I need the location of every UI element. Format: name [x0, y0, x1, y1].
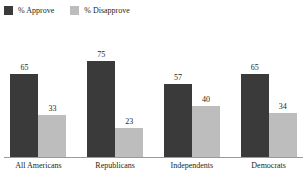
bar-value-disapprove: 34 — [279, 102, 287, 111]
bar-group-democrats: 65 34 — [230, 22, 307, 157]
bar-value-disapprove: 40 — [202, 95, 210, 104]
bar-disapprove — [38, 115, 66, 157]
bar-wrap-approve: 57 — [164, 22, 192, 157]
bar-value-approve: 75 — [97, 50, 105, 59]
bar-disapprove — [269, 113, 297, 157]
x-axis-labels: All Americans Republicans Independents D… — [0, 160, 307, 174]
bar-wrap-disapprove: 23 — [115, 22, 143, 157]
bar-value-disapprove: 33 — [48, 104, 56, 113]
legend-item-disapprove: % Disapprove — [70, 6, 130, 15]
x-axis-label-democrats: Democrats — [230, 160, 307, 172]
bar-approve — [10, 74, 38, 157]
legend-item-approve: % Approve — [4, 6, 54, 15]
bar-disapprove — [192, 106, 220, 157]
bar-wrap-approve: 75 — [87, 22, 115, 157]
bar-wrap-approve: 65 — [241, 22, 269, 157]
x-axis-baseline — [4, 157, 303, 158]
legend-swatch-approve — [4, 6, 13, 15]
bar-chart: % Approve % Disapprove 65 33 — [0, 0, 307, 178]
bar-approve — [241, 74, 269, 157]
bar-group-all-americans: 65 33 — [0, 22, 77, 157]
bar-wrap-approve: 65 — [10, 22, 38, 157]
legend-label-disapprove: % Disapprove — [84, 6, 130, 15]
bar-value-approve: 65 — [251, 63, 259, 72]
bar-value-approve: 57 — [174, 73, 182, 82]
bar-value-disapprove: 23 — [125, 117, 133, 126]
bar-group-independents: 57 40 — [154, 22, 231, 157]
bar-approve — [164, 84, 192, 157]
bar-approve — [87, 61, 115, 157]
bar-value-approve: 65 — [20, 63, 28, 72]
bar-wrap-disapprove: 34 — [269, 22, 297, 157]
x-axis-label-independents: Independents — [154, 160, 231, 172]
bar-wrap-disapprove: 40 — [192, 22, 220, 157]
chart-legend: % Approve % Disapprove — [4, 4, 130, 16]
x-axis-label-republicans: Republicans — [77, 160, 154, 172]
plot-area: 65 33 75 23 — [0, 22, 307, 158]
legend-label-approve: % Approve — [18, 6, 54, 15]
bar-wrap-disapprove: 33 — [38, 22, 66, 157]
x-axis-label-all-americans: All Americans — [0, 160, 77, 172]
legend-swatch-disapprove — [70, 6, 79, 15]
bar-group-republicans: 75 23 — [77, 22, 154, 157]
bar-disapprove — [115, 128, 143, 157]
